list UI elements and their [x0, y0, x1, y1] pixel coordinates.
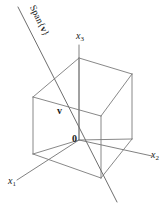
cube-edge-top-front-left: [33, 97, 101, 116]
cube-edge-bottom-front-right: [101, 139, 132, 178]
axis-x1-line: [17, 140, 79, 180]
cube-edge-top-back-right: [79, 58, 132, 74]
figure-canvas: x3 x2 x1 v 0 Span{v}: [0, 0, 167, 207]
vector-label-v: v: [57, 106, 62, 116]
axis-label-x3-subscript: 3: [80, 35, 84, 43]
cube-edge-bottom-back-right: [79, 139, 132, 140]
axis-label-x2-subscript: 2: [155, 154, 159, 162]
axis-label-x1-subscript: 1: [12, 180, 16, 188]
cube-edge-top-back-left: [33, 58, 79, 97]
cube-edge-bottom-front-left: [33, 154, 101, 178]
origin-label: 0: [72, 134, 77, 144]
axis-label-x1: x1: [8, 176, 16, 188]
axis-label-x3: x3: [76, 31, 84, 43]
axis-label-x2: x2: [151, 150, 159, 162]
cube-edge-top-front-right: [101, 74, 132, 116]
